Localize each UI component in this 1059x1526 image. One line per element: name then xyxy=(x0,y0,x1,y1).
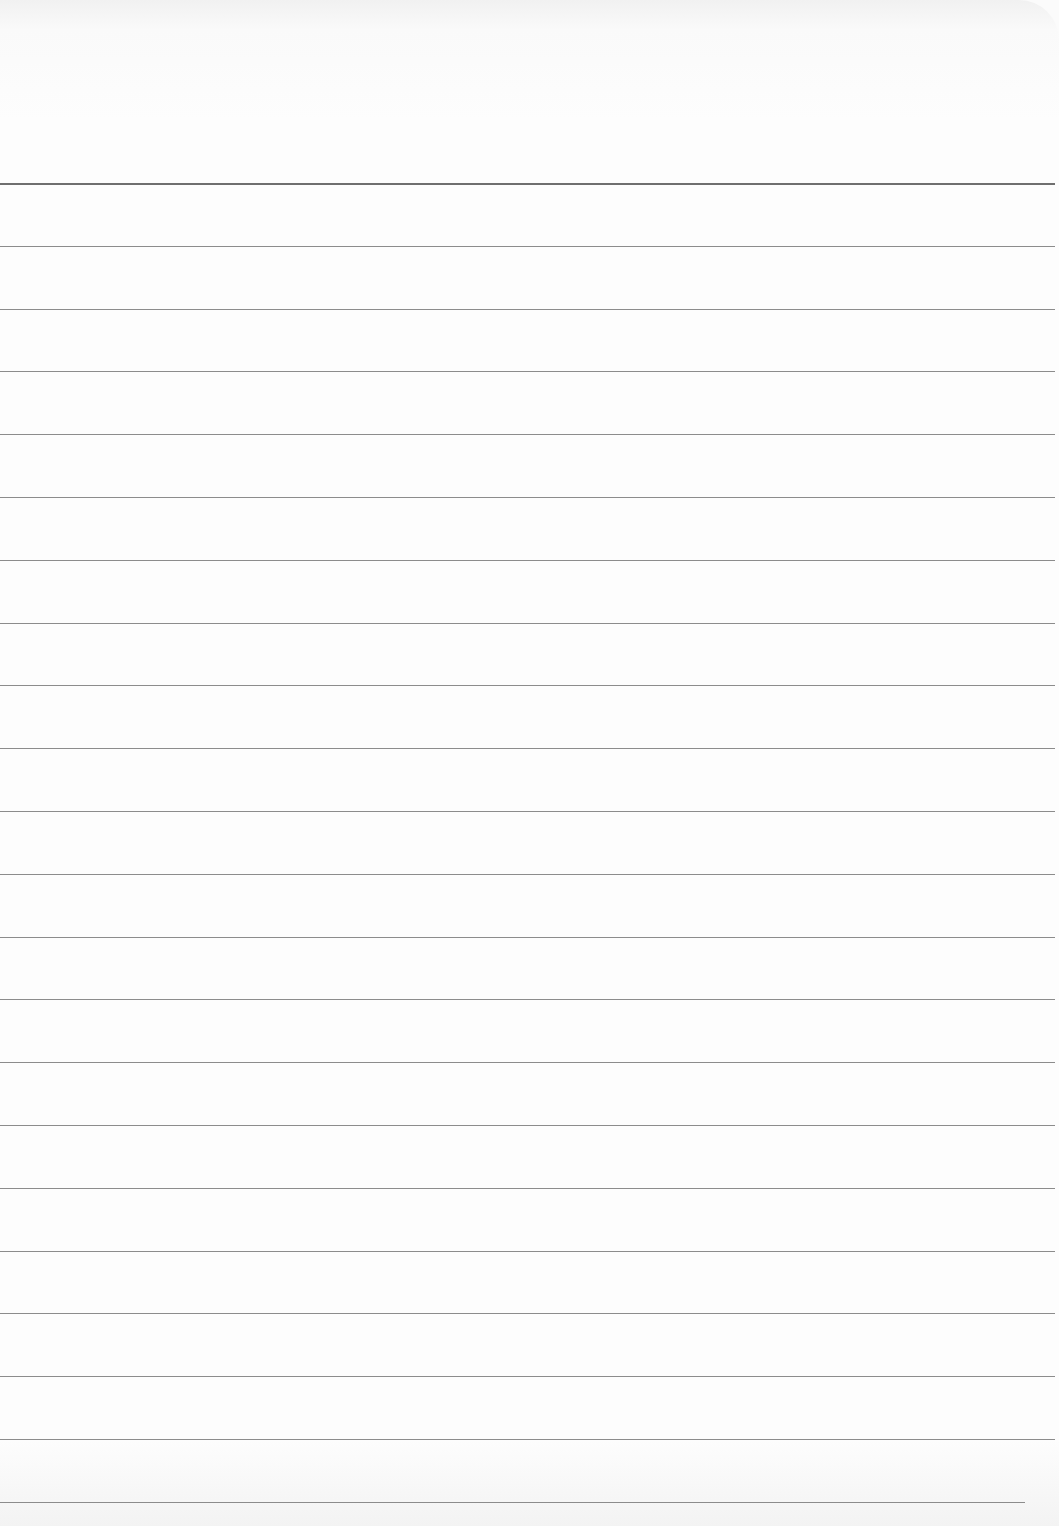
rule-line xyxy=(0,1125,1055,1126)
rule-line xyxy=(0,371,1055,372)
rule-line xyxy=(0,1188,1055,1189)
lined-paper-sheet xyxy=(0,0,1059,1526)
rule-line xyxy=(0,748,1055,749)
rule-line xyxy=(0,874,1055,875)
rule-line xyxy=(0,999,1055,1000)
rule-line xyxy=(0,623,1055,624)
rule-line xyxy=(0,309,1055,310)
rule-line xyxy=(0,1502,1025,1503)
rule-line xyxy=(0,1439,1055,1440)
rule-line xyxy=(0,811,1055,812)
rule-line xyxy=(0,434,1055,435)
rule-line xyxy=(0,1062,1055,1063)
rule-line xyxy=(0,685,1055,686)
rule-line xyxy=(0,1376,1055,1377)
rule-line xyxy=(0,937,1055,938)
header-rule-line xyxy=(0,183,1055,185)
rule-line xyxy=(0,1313,1055,1314)
rule-line xyxy=(0,560,1055,561)
header-blank-area xyxy=(0,0,1059,180)
rule-line xyxy=(0,497,1055,498)
rule-line xyxy=(0,246,1055,247)
rule-line xyxy=(0,1251,1055,1252)
